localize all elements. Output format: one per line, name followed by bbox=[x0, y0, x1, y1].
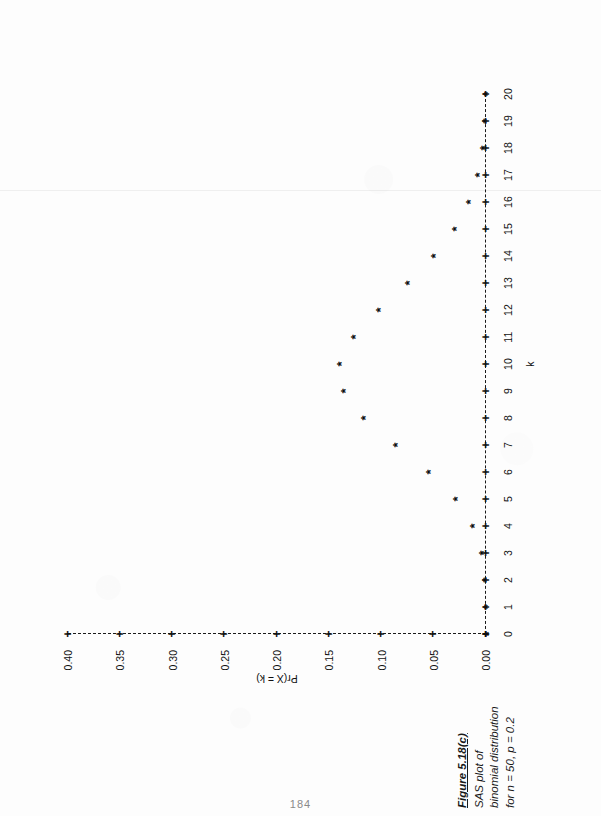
y-tick-0.35 bbox=[113, 628, 126, 641]
y-tick-label-0.40: 0.40 bbox=[62, 650, 74, 670]
y-tick-0.05 bbox=[427, 628, 440, 641]
y-tick-label-0.25: 0.25 bbox=[218, 650, 230, 670]
x-tick-label-0: 0 bbox=[502, 631, 514, 637]
figure-caption: Figure 5.18(c) SAS plot of binomial dist… bbox=[455, 690, 601, 810]
data-point-k15 bbox=[450, 225, 459, 234]
x-tick-label-6: 6 bbox=[502, 469, 514, 475]
data-point-k0 bbox=[481, 630, 490, 639]
data-point-k5 bbox=[450, 495, 459, 504]
x-tick-label-9: 9 bbox=[502, 388, 514, 394]
data-point-k4 bbox=[468, 522, 477, 531]
x-tick-label-14: 14 bbox=[502, 250, 514, 262]
x-tick-label-17: 17 bbox=[502, 169, 514, 181]
x-tick-label-3: 3 bbox=[502, 550, 514, 556]
figure-caption-title: Figure 5.18(c) bbox=[455, 688, 471, 808]
x-tick-label-10: 10 bbox=[502, 358, 514, 370]
data-point-k13 bbox=[402, 279, 411, 288]
x-tick-label-7: 7 bbox=[502, 442, 514, 448]
data-point-k8 bbox=[359, 414, 368, 423]
data-point-k3 bbox=[476, 549, 485, 558]
x-tick-label-8: 8 bbox=[502, 415, 514, 421]
x-tick-label-16: 16 bbox=[502, 196, 514, 208]
x-tick-label-4: 4 bbox=[502, 523, 514, 529]
x-tick-label-12: 12 bbox=[502, 304, 514, 316]
data-point-k2 bbox=[480, 576, 489, 585]
y-tick-0.20 bbox=[270, 628, 283, 641]
x-tick-label-13: 13 bbox=[502, 277, 514, 289]
data-point-k12 bbox=[373, 306, 382, 315]
data-point-k17 bbox=[472, 171, 481, 180]
x-tick-14 bbox=[480, 250, 493, 263]
x-tick-label-5: 5 bbox=[502, 496, 514, 502]
plot-axes-area: 01234567891011121314151617181920 0.000.0… bbox=[68, 94, 486, 634]
x-tick-11 bbox=[480, 331, 493, 344]
figure-caption-line-2: binomial distribution bbox=[487, 688, 503, 808]
y-tick-label-0.05: 0.05 bbox=[427, 650, 439, 670]
x-axis-title: k bbox=[524, 361, 536, 366]
x-tick-9 bbox=[480, 385, 493, 398]
x-tick-10 bbox=[480, 358, 493, 371]
rotated-plot: 01234567891011121314151617181920 0.000.0… bbox=[44, 66, 564, 726]
x-tick-label-15: 15 bbox=[502, 223, 514, 235]
y-tick-0.30 bbox=[166, 628, 179, 641]
y-tick-label-0.00: 0.00 bbox=[480, 650, 492, 670]
y-tick-0.25 bbox=[218, 628, 231, 641]
data-point-k16 bbox=[464, 198, 473, 207]
data-point-k9 bbox=[338, 387, 347, 396]
page-number: 184 bbox=[290, 798, 311, 810]
data-point-k1 bbox=[481, 603, 490, 612]
x-tick-label-20: 20 bbox=[502, 88, 514, 100]
y-axis-title: Pr(X = k) bbox=[256, 673, 298, 685]
x-tick-label-18: 18 bbox=[502, 142, 514, 154]
data-point-k10 bbox=[335, 360, 344, 369]
data-point-k7 bbox=[390, 441, 399, 450]
x-tick-label-19: 19 bbox=[502, 115, 514, 127]
x-tick-15 bbox=[480, 223, 493, 236]
figure-caption-text: Figure 5.18(c) SAS plot of binomial dist… bbox=[455, 688, 518, 808]
x-tick-8 bbox=[480, 412, 493, 425]
figure-caption-line-3: for n = 50, p = 0.2 bbox=[503, 688, 519, 808]
page-canvas: 01234567891011121314151617181920 0.000.0… bbox=[0, 0, 601, 816]
y-tick-0.10 bbox=[375, 628, 388, 641]
y-tick-label-0.30: 0.30 bbox=[166, 650, 178, 670]
x-tick-7 bbox=[480, 439, 493, 452]
data-point-k20 bbox=[480, 90, 489, 99]
data-point-k19 bbox=[479, 117, 488, 126]
data-point-k18 bbox=[477, 144, 486, 153]
y-tick-label-0.10: 0.10 bbox=[375, 650, 387, 670]
x-tick-5 bbox=[480, 493, 493, 506]
data-point-k6 bbox=[423, 468, 432, 477]
x-tick-13 bbox=[480, 277, 493, 290]
y-tick-0.15 bbox=[322, 628, 335, 641]
figure-caption-line-1: SAS plot of bbox=[472, 688, 488, 808]
y-tick-label-0.15: 0.15 bbox=[323, 650, 335, 670]
y-tick-label-0.35: 0.35 bbox=[114, 650, 126, 670]
x-tick-12 bbox=[480, 304, 493, 317]
y-tick-0.40 bbox=[61, 628, 74, 641]
x-tick-label-11: 11 bbox=[502, 331, 514, 342]
y-tick-label-0.20: 0.20 bbox=[271, 650, 283, 670]
data-point-k11 bbox=[348, 333, 357, 342]
x-tick-label-1: 1 bbox=[502, 604, 514, 610]
x-tick-6 bbox=[480, 466, 493, 479]
x-tick-label-2: 2 bbox=[502, 577, 514, 583]
data-point-k14 bbox=[429, 252, 438, 261]
x-tick-16 bbox=[480, 196, 493, 209]
